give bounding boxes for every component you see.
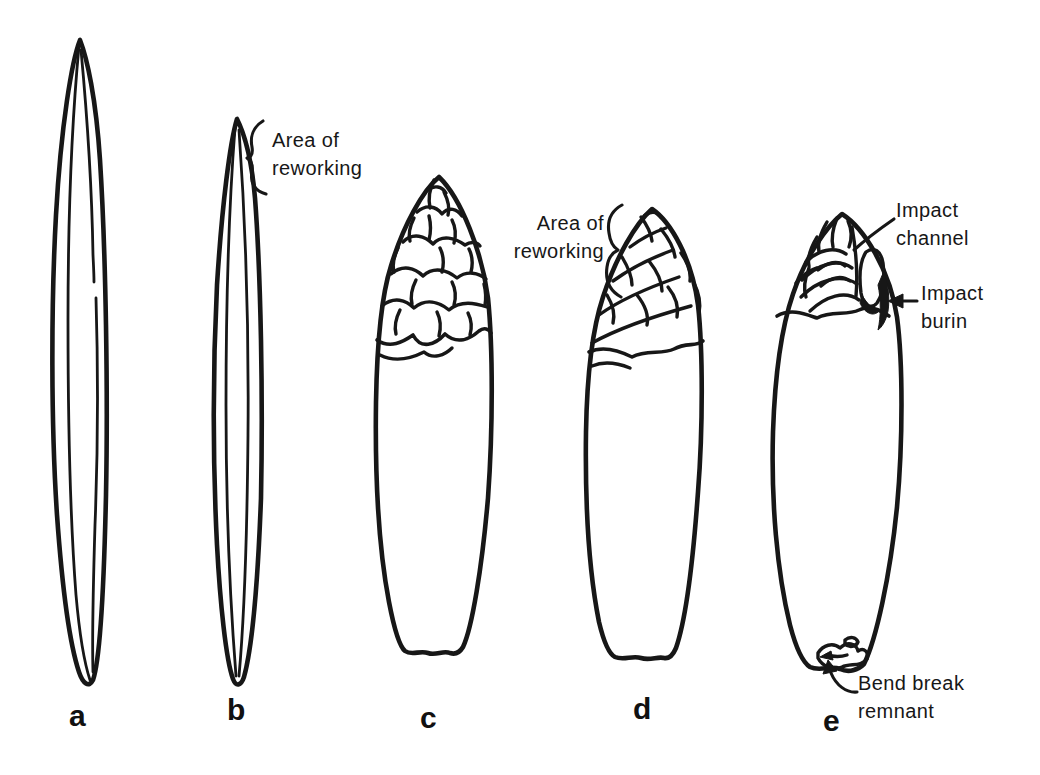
blade-c-drawing xyxy=(376,177,492,654)
blade-b-outline xyxy=(214,119,262,684)
annotation-text-line: Area of xyxy=(500,209,604,237)
panel-label-a: a xyxy=(69,701,86,731)
blade-c-flake-boundary xyxy=(380,348,452,359)
annotation-impact-channel: Impact channel xyxy=(896,196,969,252)
annotation-area-of-reworking-d: Area of reworking xyxy=(500,209,604,265)
annotation-area-of-reworking-b: Area of reworking xyxy=(272,126,362,182)
blade-b-drawing xyxy=(214,119,266,684)
annotation-text-line: remnant xyxy=(858,697,964,725)
blade-d-flake-boundary xyxy=(589,341,703,357)
annotation-text-line: Impact xyxy=(921,279,983,307)
panel-label-e: e xyxy=(823,706,840,736)
annotation-text-line: reworking xyxy=(500,237,604,265)
bend-break-remnant-drawing xyxy=(818,638,867,669)
blade-b-ridge-line xyxy=(226,128,236,676)
annotation-text-line: Bend break xyxy=(858,669,964,697)
blade-d-outline xyxy=(586,209,702,659)
blade-a-ridge-line xyxy=(93,298,98,672)
blade-c-outline xyxy=(376,177,492,654)
annotation-impact-burin: Impact burin xyxy=(921,279,983,335)
panel-label-d: d xyxy=(633,694,651,724)
panel-label-c: c xyxy=(420,703,437,733)
impact-channel-leader-line xyxy=(854,219,894,250)
annotation-text-line: Area of xyxy=(272,126,362,154)
blade-e-drawing xyxy=(773,214,902,671)
lithic-reduction-figure: Area of reworking Area of reworking Impa… xyxy=(0,0,1040,775)
annotation-text-line: Impact xyxy=(896,196,969,224)
panel-label-b: b xyxy=(227,695,245,725)
annotation-text-line: reworking xyxy=(272,154,362,182)
blade-a-ridge-line xyxy=(68,46,90,680)
diagram-canvas xyxy=(0,0,1040,775)
blade-d-drawing xyxy=(586,205,703,659)
blade-b-ridge-line xyxy=(239,130,248,676)
blade-a-drawing xyxy=(52,40,106,684)
annotation-bend-break-remnant: Bend break remnant xyxy=(858,669,964,725)
annotation-text-line: burin xyxy=(921,307,983,335)
annotation-pointers xyxy=(823,219,917,692)
annotation-text-line: channel xyxy=(896,224,969,252)
blade-d-flake-boundary xyxy=(592,363,630,368)
blade-c-flake-scars xyxy=(382,180,487,336)
bend-break-arrow xyxy=(831,673,857,692)
brace-icon xyxy=(247,121,266,194)
